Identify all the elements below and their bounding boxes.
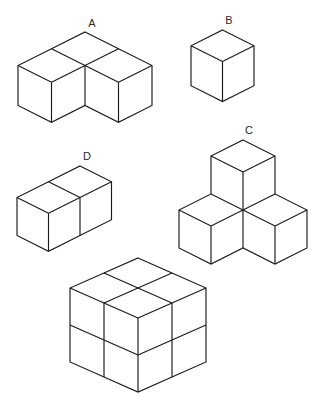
figure-canvas: A B	[0, 0, 324, 417]
cube-figure-svg: A B	[0, 0, 324, 417]
shape-c-label: C	[245, 124, 253, 136]
shape-a-label: A	[88, 17, 96, 29]
shape-d-label: D	[83, 150, 91, 162]
shape-b-label: B	[225, 14, 232, 26]
